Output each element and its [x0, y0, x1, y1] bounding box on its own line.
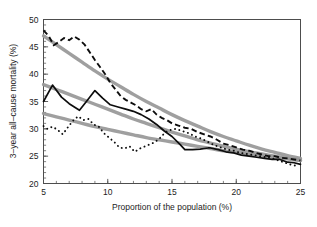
y-tick-label: 45: [29, 42, 39, 52]
plot-border: [44, 20, 301, 184]
y-tick-label: 40: [29, 69, 39, 79]
axis-ticks-layer: [44, 20, 301, 184]
x-axis-title: Proportion of the population (%): [112, 202, 232, 212]
x-tick-label: 20: [232, 187, 242, 197]
x-tick-label: 15: [167, 187, 177, 197]
x-tick-label: 10: [103, 187, 113, 197]
y-tick-label: 20: [29, 179, 39, 189]
data-series-layer: [44, 30, 301, 166]
chart-canvas: 51015202520253035404550 Proportion of th…: [0, 0, 317, 227]
y-axis-title: 3–year all–cause mortality (%): [8, 44, 18, 158]
chart-figure: 51015202520253035404550 Proportion of th…: [0, 0, 317, 227]
y-tick-label: 50: [29, 15, 39, 25]
y-tick-label: 25: [29, 151, 39, 161]
series-smooth: [44, 36, 301, 158]
y-tick-label: 30: [29, 124, 39, 134]
y-tick-label: 35: [29, 97, 39, 107]
x-tick-label: 25: [296, 187, 306, 197]
plot-frame: [44, 20, 301, 184]
x-tick-label: 5: [41, 187, 46, 197]
